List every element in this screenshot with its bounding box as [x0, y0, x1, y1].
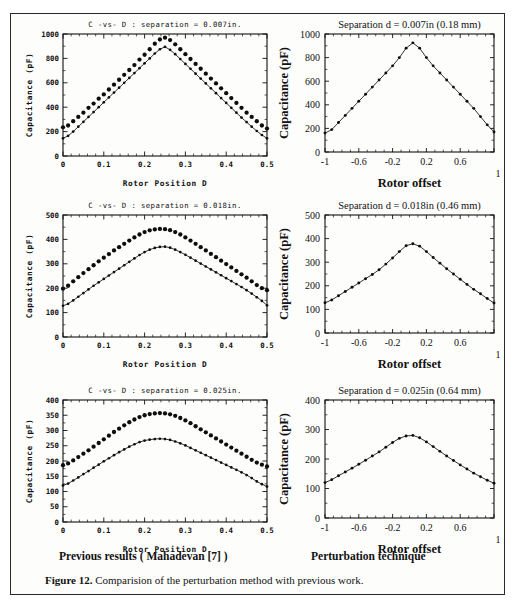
data-point [265, 288, 269, 292]
data-point [164, 245, 167, 248]
data-point [179, 251, 182, 254]
data-point [225, 277, 228, 280]
data-point [127, 238, 131, 242]
data-point [398, 250, 401, 253]
data-point [219, 86, 223, 90]
data-point [337, 121, 340, 124]
data-point [123, 81, 126, 84]
data-point [344, 114, 347, 117]
y-tick-label: 0 [55, 152, 59, 161]
data-point [76, 115, 80, 119]
data-point [71, 119, 75, 123]
y-tick-label: 350 [46, 411, 59, 420]
data-point [102, 256, 106, 260]
data-point [183, 418, 187, 422]
data-point [199, 77, 202, 80]
data-point [204, 454, 207, 457]
data-point [224, 262, 228, 266]
series-line [325, 244, 494, 303]
data-point [204, 265, 207, 268]
chart-svg: Separation d = 0.007in (0.18 mm)-1-0.6-0… [273, 14, 506, 192]
data-point [324, 301, 327, 304]
data-point [364, 93, 367, 96]
data-point [97, 97, 101, 101]
y-tick-label: 0 [55, 518, 59, 527]
data-point [357, 100, 360, 103]
data-point [209, 252, 213, 256]
data-point [398, 437, 401, 440]
data-point [132, 63, 136, 67]
data-point [472, 107, 475, 110]
data-point [132, 235, 136, 239]
data-point [86, 448, 90, 452]
data-point [229, 445, 233, 449]
data-point [261, 483, 264, 486]
caption-text: Comparision of the perturbation method w… [95, 574, 363, 586]
plot-left-bottom: C -vs- D : separation = 0.025in.00.10.20… [19, 380, 277, 558]
data-point [128, 445, 131, 448]
data-point [86, 106, 90, 110]
data-point [148, 438, 151, 441]
x-tick-label: 0.2 [138, 341, 151, 350]
data-point [183, 235, 187, 239]
data-point [266, 304, 269, 307]
data-point [391, 441, 394, 444]
data-series [62, 45, 269, 139]
data-point [62, 304, 65, 307]
data-point [77, 125, 80, 128]
x-tick-label: -1 [321, 156, 329, 167]
data-point [235, 111, 238, 114]
data-point [148, 412, 152, 416]
series-line [63, 47, 267, 139]
data-point [168, 38, 172, 42]
data-point [204, 82, 207, 85]
data-point [71, 279, 75, 283]
data-point [159, 246, 162, 249]
data-point [113, 271, 116, 274]
data-point [234, 448, 238, 452]
data-point [87, 470, 90, 473]
data-point [261, 300, 264, 303]
data-point [118, 451, 121, 454]
data-point [97, 463, 100, 466]
data-point [405, 435, 408, 438]
x-tick-label: 1 [496, 534, 501, 545]
y-tick-label: 800 [46, 54, 59, 63]
data-point [371, 455, 374, 458]
data-point [97, 259, 101, 263]
data-point [143, 251, 146, 254]
plot-frame [63, 400, 267, 522]
data-point [378, 450, 381, 453]
data-point [138, 254, 141, 257]
x-tick-label: 0.5 [260, 526, 273, 535]
data-point [137, 57, 141, 61]
data-point [215, 92, 218, 95]
data-point [199, 67, 203, 71]
plot-frame [63, 34, 267, 156]
x-tick-label: 0.5 [260, 341, 273, 350]
data-point [91, 101, 95, 105]
data-point [250, 458, 254, 462]
data-point [384, 71, 387, 74]
data-point [133, 257, 136, 260]
x-axis-label: Rotor offset [378, 176, 442, 190]
y-tick-label: 250 [46, 441, 59, 450]
data-point [245, 121, 248, 124]
data-point [199, 451, 202, 454]
data-point [62, 484, 65, 487]
data-point [493, 130, 496, 133]
data-point [234, 101, 238, 105]
data-point [466, 468, 469, 471]
data-point [255, 460, 259, 464]
data-point [445, 267, 448, 270]
data-point [138, 67, 141, 70]
data-point [71, 458, 75, 462]
data-point [351, 107, 354, 110]
plot-left-top: C -vs- D : separation = 0.007in.00.10.20… [19, 14, 277, 192]
data-point [432, 256, 435, 259]
data-point [153, 247, 156, 250]
data-point [123, 264, 126, 267]
data-point [133, 443, 136, 446]
data-point [158, 37, 162, 41]
data-point [169, 246, 172, 249]
